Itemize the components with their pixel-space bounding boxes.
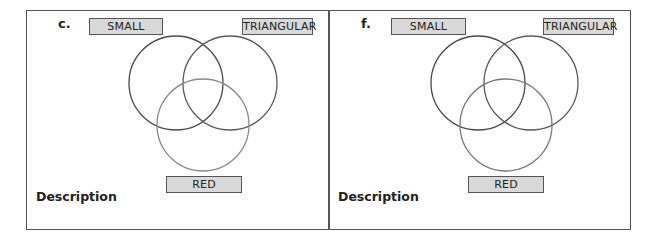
circle-triangular <box>183 36 277 130</box>
venn-diagram-f <box>431 36 578 171</box>
panel-letter: c. <box>58 16 71 31</box>
circle-red <box>460 79 552 171</box>
label-triangular: TRIANGULAR <box>543 18 614 35</box>
label-small: SMALL <box>391 18 466 35</box>
circle-small <box>431 36 525 130</box>
panel-letter: f. <box>361 16 371 31</box>
label-triangular: TRIANGULAR <box>242 18 313 35</box>
circle-small <box>129 36 223 130</box>
circle-triangular <box>484 36 578 130</box>
label-red: RED <box>166 176 242 193</box>
label-red: RED <box>468 176 544 193</box>
venn-diagrams <box>0 0 651 246</box>
label-small: SMALL <box>89 18 163 35</box>
description-label: Description <box>36 189 117 204</box>
description-label: Description <box>338 189 419 204</box>
circle-red <box>157 79 249 171</box>
venn-diagram-c <box>129 36 277 171</box>
